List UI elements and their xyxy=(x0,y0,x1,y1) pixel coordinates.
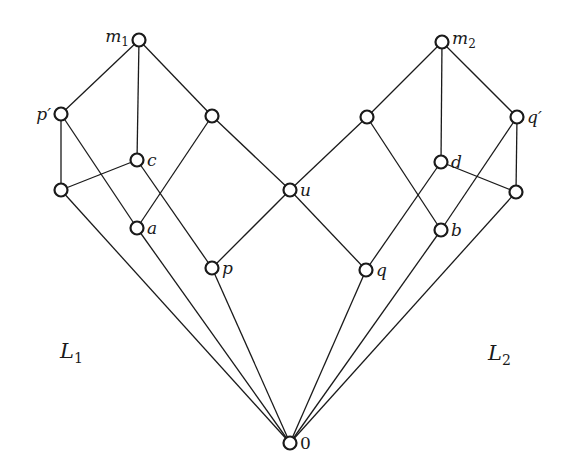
node-label-q: q xyxy=(376,260,387,280)
node-m2 xyxy=(436,36,449,49)
region-label-L2: L2 xyxy=(487,341,511,368)
nodes-layer xyxy=(55,34,524,450)
labels-layer: m1p′capuqm2dbq′0L1L2 xyxy=(36,26,542,453)
lattice-diagram: m1p′capuqm2dbq′0L1L2 xyxy=(0,0,580,455)
edge-l2-b xyxy=(367,117,441,230)
edge-r1-a xyxy=(137,116,212,228)
node-p xyxy=(206,262,219,275)
node-pp xyxy=(55,108,68,121)
edges-layer xyxy=(61,40,517,443)
edge-c-p xyxy=(137,160,212,268)
node-b xyxy=(435,224,448,237)
edge-qp-rb xyxy=(516,117,517,192)
node-label-m1: m1 xyxy=(105,26,129,49)
node-c xyxy=(131,154,144,167)
node-q xyxy=(360,264,373,277)
node-m1 xyxy=(133,34,146,47)
region-label-L1: L1 xyxy=(59,339,83,366)
node-d xyxy=(435,156,448,169)
edge-m2-d xyxy=(441,42,442,162)
edge-r1-u xyxy=(212,116,290,190)
edge-m2-l2 xyxy=(367,42,442,117)
node-label-zero: 0 xyxy=(300,433,311,453)
edge-d-q xyxy=(366,162,441,270)
edge-m2-qp xyxy=(442,42,517,117)
edge-m1-pp xyxy=(61,40,139,114)
node-label-a: a xyxy=(147,218,157,238)
node-a xyxy=(131,222,144,235)
node-label-d: d xyxy=(451,152,462,172)
edge-zero-p xyxy=(212,268,290,443)
node-label-b: b xyxy=(451,220,462,240)
node-label-c: c xyxy=(147,150,157,170)
edge-zero-b xyxy=(290,230,441,443)
edge-c-lb xyxy=(61,160,137,190)
edge-m1-r1 xyxy=(139,40,212,116)
edge-m1-c xyxy=(137,40,139,160)
node-label-qp: q′ xyxy=(527,107,542,127)
edge-zero-rb xyxy=(290,192,516,443)
node-label-p: p xyxy=(222,258,233,278)
node-label-pp: p′ xyxy=(36,104,51,124)
node-rb xyxy=(510,186,523,199)
edge-zero-q xyxy=(290,270,366,443)
node-label-m2: m2 xyxy=(452,28,476,51)
node-r1 xyxy=(206,110,219,123)
edge-pp-a xyxy=(61,114,137,228)
node-lb xyxy=(55,184,68,197)
node-qp xyxy=(511,111,524,124)
node-u xyxy=(284,184,297,197)
edge-u-q xyxy=(290,190,366,270)
node-zero xyxy=(284,437,297,450)
edge-zero-lb xyxy=(61,190,290,443)
edge-u-p xyxy=(212,190,290,268)
node-label-u: u xyxy=(300,180,311,200)
edge-qp-b xyxy=(441,117,517,230)
edge-zero-a xyxy=(137,228,290,443)
node-l2 xyxy=(361,111,374,124)
